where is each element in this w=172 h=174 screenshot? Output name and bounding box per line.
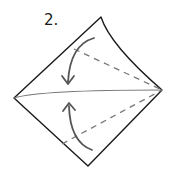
origami-diagram: 2. [0, 0, 172, 174]
step-number-label: 2. [44, 13, 58, 28]
fold-illustration [0, 0, 172, 174]
